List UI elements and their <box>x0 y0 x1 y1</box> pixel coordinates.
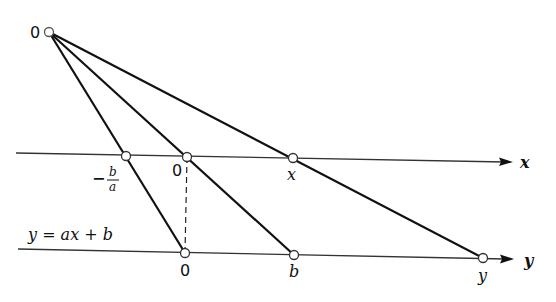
x-point-zero <box>183 153 192 162</box>
y-point-b <box>290 251 299 260</box>
x-axis-arrow-icon <box>499 158 513 167</box>
y-axis-label: y <box>523 251 535 270</box>
ray-to-zero <box>49 32 185 253</box>
y-b-label: b <box>289 262 299 281</box>
origin-label: 0 <box>30 23 40 42</box>
y-zero-label: 0 <box>180 261 190 280</box>
x-zero-label: 0 <box>172 161 182 180</box>
x-point-x <box>289 154 298 163</box>
y-point-label: y <box>477 266 488 285</box>
x-point-label: x <box>287 165 296 184</box>
y-point-y <box>479 254 488 263</box>
ray-to-b <box>49 32 294 255</box>
x-point-neg-b-over-a <box>122 152 131 161</box>
frac-numerator-label: b <box>109 165 117 179</box>
frac-denominator-label: a <box>109 180 116 194</box>
y-axis-arrow-icon <box>500 255 514 264</box>
x-axis-line <box>16 153 505 162</box>
equation-label: y = ax + b <box>27 225 113 244</box>
origin-point <box>45 28 54 37</box>
neg-sign-label: − <box>92 169 105 188</box>
nomogram-diagram: x y y = ax + b 0 − b a 0 x 0 b y <box>0 0 556 302</box>
dashed-connector <box>185 157 187 253</box>
y-axis-line <box>18 249 505 259</box>
y-point-zero <box>181 249 190 258</box>
x-axis-label: x <box>519 153 530 172</box>
ray-to-y <box>49 32 483 258</box>
